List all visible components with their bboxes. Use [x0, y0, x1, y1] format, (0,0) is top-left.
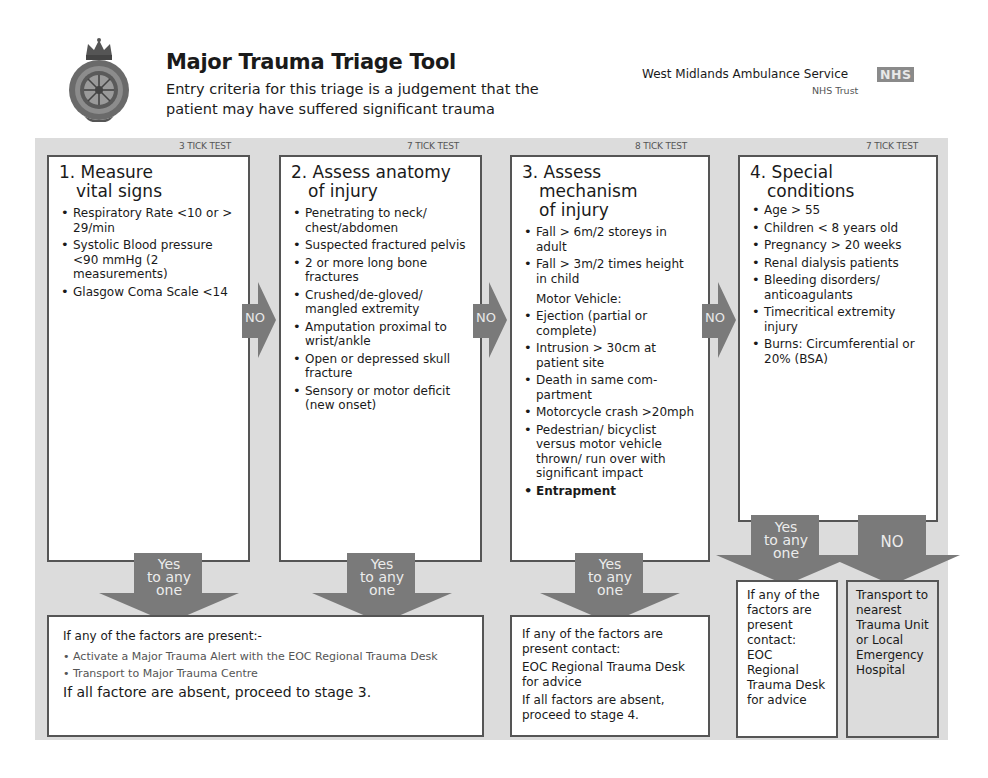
stage-2-box: 2. Assess anatomy of injury Penetrating …: [279, 155, 482, 562]
page-title: Major Trauma Triage Tool: [166, 50, 456, 74]
yes-arrow-label: Yes to any one: [540, 558, 680, 597]
yes-arrow-stage-3: Yes to any one: [540, 553, 680, 623]
stage-4-box: 4. Special conditions Age > 55 Children …: [738, 155, 938, 522]
stage-2-criteria: Penetrating to neck/ chest/abdomen Suspe…: [291, 206, 470, 413]
criterion-item: Fall > 3m/2 times height in child: [522, 257, 698, 286]
outcome-contact: EOC Regional Trauma Desk for advice: [747, 648, 827, 708]
criterion-item: Pedestrian/ bicyclist versus motor vehic…: [522, 423, 698, 481]
stage-3-title: 3. Assess mechanism of injury: [522, 163, 698, 220]
no-arrow-stage-4: NO: [824, 515, 960, 585]
criterion-item: Suspected fractured pelvis: [291, 238, 470, 253]
criterion-item: Death in same com- partment: [522, 373, 698, 402]
criterion-item: Fall > 6m/2 storeys in adult: [522, 225, 698, 254]
yes-arrow-stage-2: Yes to any one: [312, 553, 452, 623]
criterion-item: Renal dialysis patients: [750, 256, 926, 271]
criterion-item: Glasgow Coma Scale <14: [59, 285, 238, 300]
no-arrow-label: NO: [705, 310, 725, 325]
criterion-item: Penetrating to neck/ chest/abdomen: [291, 206, 470, 235]
criterion-item: 2 or more long bone fractures: [291, 256, 470, 285]
outcome-contact: EOC Regional Trauma Desk for advice: [522, 660, 698, 690]
stage-1-box: 1. Measure vital signs Respiratory Rate …: [47, 155, 250, 562]
stage-1-title: 1. Measure vital signs: [59, 163, 238, 201]
outcome-intro: If any of the factors are present contac…: [522, 627, 698, 657]
criterion-item: Systolic Blood pressure <90 mmHg (2 meas…: [59, 238, 238, 282]
tick-label-stage-4: 7 TICK TEST: [866, 141, 918, 151]
no-arrow-label: NO: [476, 310, 496, 325]
criterion-item: Burns: Circumferential or 20% (BSA): [750, 337, 926, 366]
outcome-action: Activate a Major Trauma Alert with the E…: [63, 650, 468, 663]
yes-arrow-label: Yes to any one: [312, 558, 452, 597]
stage-4-title: 4. Special conditions: [750, 163, 926, 201]
outcome-intro: If any of the factors are present:-: [63, 629, 468, 644]
criterion-item: Motorcycle crash >20mph: [522, 405, 698, 420]
criterion-item: Timecritical extremity injury: [750, 305, 926, 334]
page-subtitle: Entry criteria for this triage is a judg…: [166, 79, 586, 119]
yes-arrow-stage-1: Yes to any one: [99, 553, 239, 623]
outcome-action: Transport to Major Trauma Centre: [63, 667, 468, 680]
motor-vehicle-subheading: Motor Vehicle:: [522, 292, 698, 306]
no-arrow-label: NO: [824, 536, 960, 549]
yes-arrow-label: Yes to any one: [99, 558, 239, 597]
stage-3-box: 3. Assess mechanism of injury Fall > 6m/…: [510, 155, 710, 562]
criterion-item: Bleeding disorders/ anticoagulants: [750, 273, 926, 302]
outcome-stage-4-no: Transport to nearest Trauma Unit or Loca…: [846, 580, 939, 738]
criterion-item: Intrusion > 30cm at patient site: [522, 341, 698, 370]
criterion-item: Crushed/de-gloved/ mangled extremity: [291, 288, 470, 317]
outcome-absent: If all factore are absent, proceed to st…: [63, 684, 468, 701]
organisation-name: West Midlands Ambulance Service: [642, 67, 848, 81]
outcome-stage-3: If any of the factors are present contac…: [510, 615, 710, 737]
trust-label: NHS Trust: [812, 85, 858, 96]
stage-1-criteria: Respiratory Rate <10 or > 29/min Systoli…: [59, 206, 238, 299]
outcome-transport: Transport to nearest Trauma Unit or Loca…: [856, 588, 929, 678]
outcome-stages-1-2: If any of the factors are present:- Acti…: [47, 615, 484, 737]
criterion-item: Entrapment: [522, 484, 698, 499]
outcome-absent: If all factors are absent, proceed to st…: [522, 693, 698, 723]
criterion-item: Ejection (partial or complete): [522, 309, 698, 338]
stage-4-criteria: Age > 55 Children < 8 years old Pregnanc…: [750, 203, 926, 366]
criterion-item: Sensory or motor deficit (new onset): [291, 384, 470, 413]
stage-3-criteria: Fall > 6m/2 storeys in adult Fall > 3m/2…: [522, 225, 698, 286]
criterion-item: Open or depressed skull fracture: [291, 352, 470, 381]
no-arrow-2-to-3: NO: [473, 282, 507, 358]
header: Major Trauma Triage Tool Entry criteria …: [0, 0, 988, 136]
ambulance-crest-icon: [66, 36, 132, 122]
criterion-item: Children < 8 years old: [750, 221, 926, 236]
stage-3-motor-criteria: Ejection (partial or complete) Intrusion…: [522, 309, 698, 498]
tick-label-stage-3: 8 TICK TEST: [635, 141, 687, 151]
tick-label-stage-2: 7 TICK TEST: [407, 141, 459, 151]
criterion-item: Respiratory Rate <10 or > 29/min: [59, 206, 238, 235]
criterion-item: Pregnancy > 20 weeks: [750, 238, 926, 253]
outcome-intro: If any of the factors are present contac…: [747, 588, 827, 648]
outcome-stage-4-yes: If any of the factors are present contac…: [736, 580, 838, 738]
tick-label-stage-1: 3 TICK TEST: [179, 141, 231, 151]
criterion-item: Age > 55: [750, 203, 926, 218]
criterion-item: Amputation proximal to wrist/ankle: [291, 320, 470, 349]
no-arrow-1-to-2: NO: [242, 282, 276, 358]
no-arrow-3-to-4: NO: [702, 282, 736, 358]
stage-2-title: 2. Assess anatomy of injury: [291, 163, 470, 201]
nhs-logo: NHS: [877, 67, 914, 82]
no-arrow-label: NO: [245, 310, 265, 325]
